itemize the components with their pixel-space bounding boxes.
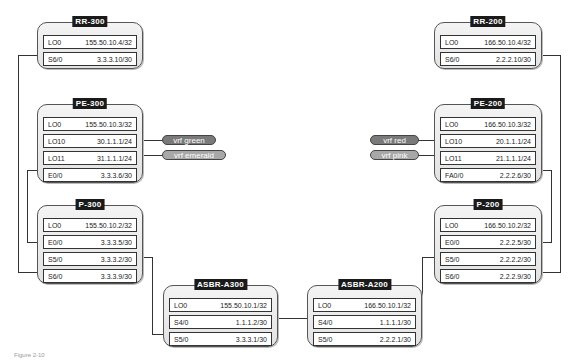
router-pe300[interactable]: PE-300 LO0155.50.10.3/32 LO1030.1.1.1/24… [37,104,143,183]
interface-ip: 2.2.2.6/30 [500,172,531,179]
interface-row: LO0155.50.10.3/32 [43,117,137,131]
link-rr300-p300 [18,55,19,272]
interface-ip: 3.3.3.5/30 [101,239,132,246]
interface-row: S5/03.3.3.2/30 [43,252,137,266]
interface-row: S5/02.2.2.2/30 [440,252,536,266]
interface-name: LO0 [48,39,61,46]
interface-row: E0/02.2.2.5/30 [440,235,536,249]
interface-row: LO1030.1.1.1/24 [43,134,137,148]
interface-ip: 3.3.3.1/30 [236,336,267,343]
router-p200[interactable]: P-200 LO0166.50.10.2/32 E0/02.2.2.5/30 S… [434,205,542,284]
vrf-pink-label[interactable]: vrf pink [370,150,419,160]
interface-name: S6/0 [445,56,459,63]
vrf-emerald-label[interactable]: vrf emerald [162,150,226,160]
interface-row: LO1121.1.1.1/24 [440,151,536,165]
router-title: ASBR-A200 [338,279,391,290]
interface-ip: 3.3.3.10/30 [97,56,132,63]
link-rr200-p200 [541,55,561,56]
interface-row: LO1131.1.1.1/24 [43,151,137,165]
interface-ip: 155.50.10.1/32 [220,302,267,309]
link-rr200-p200 [560,55,561,272]
interface-row: LO0166.50.10.1/32 [313,298,416,312]
interface-ip: 166.50.10.4/32 [484,39,531,46]
link-p300-asbra300 [152,257,153,334]
router-title: RR-200 [470,16,505,27]
interface-ip: 166.50.10.3/32 [484,121,531,128]
link-rr300-p300 [18,55,38,56]
interface-ip: 20.1.1.1/24 [496,138,531,145]
interface-name: S6/0 [445,273,459,280]
link-asbra200-p200 [422,257,434,258]
interface-name: S4/0 [174,319,188,326]
interface-ip: 2.2.2.5/30 [500,239,531,246]
link-pe300-p300 [27,170,28,242]
interface-name: S6/0 [48,56,62,63]
interface-row: LO0155.50.10.2/32 [43,218,137,232]
interface-ip: 1.1.1.2/30 [236,319,267,326]
link-rr300-p300 [18,272,38,273]
interface-name: LO11 [445,155,462,162]
interface-ip: 2.2.2.1/30 [380,336,411,343]
interface-ip: 2.2.2.9/30 [500,273,531,280]
link-pe200-p200 [541,242,552,243]
interface-ip: 166.50.10.1/32 [364,302,411,309]
interface-row: LO0155.50.10.1/32 [169,298,272,312]
interface-name: S5/0 [318,336,332,343]
interface-name: LO11 [48,155,65,162]
interface-ip: 166.50.10.2/32 [484,222,531,229]
interface-ip: 31.1.1.1/24 [97,155,132,162]
router-asbra300[interactable]: ASBR-A300 LO0155.50.10.1/32 S4/01.1.1.2/… [163,285,278,347]
interface-name: LO0 [174,302,187,309]
interface-row: S4/01.1.1.1/30 [313,315,416,329]
interface-row: E0/03.3.3.6/30 [43,168,137,182]
interface-row: LO0166.50.10.4/32 [440,35,536,49]
link-rr200-p200 [541,272,561,273]
interface-row: LO0166.50.10.3/32 [440,117,536,131]
interface-ip: 155.50.10.4/32 [85,39,132,46]
link-pe200-p200 [551,170,552,242]
interface-row: S6/02.2.2.9/30 [440,269,536,283]
interface-row: S5/03.3.3.1/30 [169,332,272,346]
interface-ip: 155.50.10.2/32 [85,222,132,229]
interface-row: S6/02.2.2.10/30 [440,52,536,66]
router-title: P-200 [474,199,503,210]
interface-name: LO0 [48,222,61,229]
router-rr200[interactable]: RR-200 LO0166.50.10.4/32 S6/02.2.2.10/30 [434,22,542,69]
link-asbra300-asbra200 [278,318,308,319]
interface-ip: 21.1.1.1/24 [496,155,531,162]
interface-name: LO10 [48,138,65,145]
router-title: PE-200 [471,98,505,109]
interface-ip: 30.1.1.1/24 [97,138,132,145]
router-title: P-300 [76,199,105,210]
vrf-green-label[interactable]: vrf green [162,135,216,145]
interface-name: S5/0 [48,256,62,263]
link-asbra200-p200 [422,257,423,334]
interface-name: LO0 [318,302,331,309]
interface-name: LO0 [445,121,458,128]
interface-name: FA0/0 [445,172,463,179]
interface-ip: 3.3.3.6/30 [101,172,132,179]
router-rr300[interactable]: RR-300 LO0155.50.10.4/32 S6/03.3.3.10/30 [37,22,143,69]
router-asbra200[interactable]: ASBR-A200 LO0166.50.10.1/32 S4/01.1.1.1/… [307,285,422,347]
interface-ip: 3.3.3.2/30 [101,256,132,263]
figure-caption: Figure 2-10 [14,352,45,358]
interface-ip: 2.2.2.2/30 [500,256,531,263]
interface-name: E0/0 [48,172,62,179]
interface-name: S4/0 [318,319,332,326]
interface-row: S6/03.3.3.10/30 [43,52,137,66]
link-pe300-vrf-green [143,140,163,141]
interface-name: E0/0 [48,239,62,246]
router-p300[interactable]: P-300 LO0155.50.10.2/32 E0/03.3.3.5/30 S… [37,205,143,284]
interface-row: S4/01.1.1.2/30 [169,315,272,329]
vrf-red-label[interactable]: vrf red [370,135,419,145]
interface-row: S6/03.3.3.9/30 [43,269,137,283]
interface-row: LO0155.50.10.4/32 [43,35,137,49]
interface-row: FA0/02.2.2.6/30 [440,168,536,182]
interface-ip: 2.2.2.10/30 [496,56,531,63]
router-title: PE-300 [73,98,107,109]
interface-row: LO0166.50.10.2/32 [440,218,536,232]
interface-row: LO1020.1.1.1/24 [440,134,536,148]
router-pe200[interactable]: PE-200 LO0166.50.10.3/32 LO1020.1.1.1/24… [434,104,542,183]
interface-name: S5/0 [445,256,459,263]
interface-name: E0/0 [445,239,459,246]
